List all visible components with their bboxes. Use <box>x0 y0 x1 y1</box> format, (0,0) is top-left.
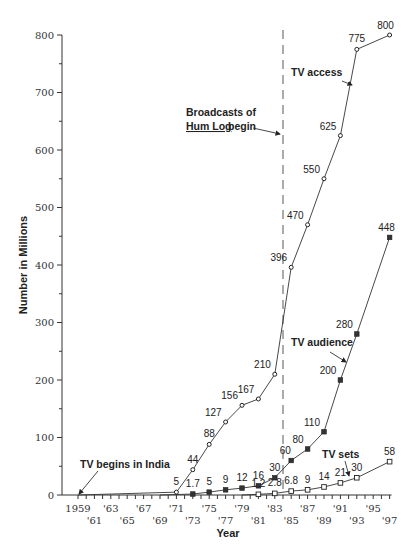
event-arrow <box>253 128 280 134</box>
data-point-circle <box>240 403 244 407</box>
y-tick-label: 500 <box>35 202 54 213</box>
x-tick-label: '97 <box>382 515 397 526</box>
x-tick-label: '79 <box>234 503 249 514</box>
x-tick-label: 1959 <box>65 503 90 514</box>
data-point-circle <box>224 420 228 424</box>
data-label: 2.8 <box>268 477 282 488</box>
x-tick-label: '69 <box>152 515 167 526</box>
data-label: 156 <box>221 390 238 401</box>
x-axis-title: Year <box>216 527 240 539</box>
x-tick-label: '67 <box>136 503 151 514</box>
data-point-filled-square <box>191 492 196 497</box>
data-point-filled-square <box>338 378 343 383</box>
x-tick-label: '63 <box>103 503 118 514</box>
x-tick-label: '87 <box>300 503 315 514</box>
data-label: 80 <box>292 434 304 445</box>
data-label: 448 <box>378 222 395 233</box>
data-label: 470 <box>287 210 304 221</box>
data-label: 30 <box>269 462 281 473</box>
x-axis: 1959'61'63'65'67'69'71'73'75'77'79'81'83… <box>62 495 397 526</box>
data-label: 9 <box>305 474 311 485</box>
x-tick-label: '71 <box>169 503 184 514</box>
y-tick-label: 700 <box>35 87 54 98</box>
data-label: 14 <box>318 471 330 482</box>
data-label: 21 <box>335 467 347 478</box>
series-layer: 544881271561672103964705506257758001.759… <box>78 20 396 497</box>
data-label: 5 <box>174 476 180 487</box>
annotation-arrow <box>330 352 346 362</box>
data-point-open-square <box>338 481 343 486</box>
data-point-filled-square <box>305 447 310 452</box>
data-point-circle <box>256 397 260 401</box>
x-tick-label: '73 <box>185 515 200 526</box>
data-label: 210 <box>254 359 271 370</box>
y-tick-label: 100 <box>35 432 54 443</box>
data-label: 1.7 <box>186 478 200 489</box>
data-point-circle <box>388 33 392 37</box>
data-label: 625 <box>320 121 337 132</box>
x-tick-label: '91 <box>333 503 348 514</box>
data-label: 396 <box>271 252 288 263</box>
y-tick-label: 800 <box>35 30 54 41</box>
data-label: 5 <box>206 476 212 487</box>
data-label: 167 <box>238 384 255 395</box>
event-label-begin: begin <box>228 120 256 132</box>
y-tick-label: 600 <box>35 145 54 156</box>
data-point-circle <box>273 372 277 376</box>
data-point-open-square <box>289 489 294 494</box>
data-label: 550 <box>303 164 320 175</box>
annotation-tv-sets: TV sets <box>322 448 360 460</box>
x-tick-label: '81 <box>251 515 266 526</box>
data-label: 30 <box>351 462 363 473</box>
annotation-arrow <box>79 471 98 494</box>
x-tick-label: '75 <box>201 503 216 514</box>
hum-log-event-marker: Broadcasts of Hum Log begin <box>186 30 283 495</box>
data-label: 44 <box>187 454 199 465</box>
event-label-hum-log: Hum Log <box>186 120 232 132</box>
data-point-filled-square <box>289 458 294 463</box>
data-label: 12 <box>236 472 248 483</box>
x-tick-label: '93 <box>349 515 364 526</box>
series-tv-access: 54488127156167210396470550625775800 <box>78 20 394 495</box>
y-tick-label: 300 <box>35 317 54 328</box>
data-point-circle <box>355 47 359 51</box>
series-tv-sets: 1.22.86.8914213058 <box>242 446 396 497</box>
data-point-filled-square <box>240 486 245 491</box>
x-tick-label: '89 <box>316 515 331 526</box>
data-point-open-square <box>305 488 310 493</box>
annotation-tv-access: TV access <box>291 66 343 78</box>
x-tick-label: '77 <box>218 515 233 526</box>
line-chart: 0100200300400500600700800 1959'61'63'65'… <box>0 0 416 560</box>
data-point-circle <box>289 265 293 269</box>
data-point-filled-square <box>355 332 360 337</box>
data-point-circle <box>191 468 195 472</box>
data-label: 800 <box>377 20 394 31</box>
data-label: 280 <box>336 319 353 330</box>
x-tick-label: '61 <box>87 515 102 526</box>
x-tick-label: '83 <box>267 503 282 514</box>
x-tick-label: '65 <box>119 515 134 526</box>
data-label: 60 <box>280 445 292 456</box>
data-point-open-square <box>355 475 360 480</box>
data-point-open-square <box>387 459 392 464</box>
y-tick-label: 200 <box>35 375 54 386</box>
series-line <box>78 35 390 495</box>
data-point-circle <box>338 134 342 138</box>
data-point-filled-square <box>223 488 228 493</box>
y-tick-label: 0 <box>48 490 54 501</box>
x-tick-label: '85 <box>283 515 298 526</box>
data-point-circle <box>306 223 310 227</box>
data-label: 1.2 <box>251 478 265 489</box>
data-point-open-square <box>273 491 278 496</box>
data-point-filled-square <box>322 429 327 434</box>
data-label: 9 <box>223 474 229 485</box>
data-point-open-square <box>322 485 327 490</box>
y-axis: 0100200300400500600700800 <box>35 30 62 501</box>
data-point-filled-square <box>387 235 392 240</box>
data-label: 110 <box>304 417 320 428</box>
data-point-filled-square <box>207 490 212 495</box>
y-axis-title: Number in Millions <box>17 216 29 314</box>
x-tick-label: '95 <box>365 503 380 514</box>
data-label: 127 <box>205 407 222 418</box>
event-label-line1: Broadcasts of <box>186 106 257 118</box>
